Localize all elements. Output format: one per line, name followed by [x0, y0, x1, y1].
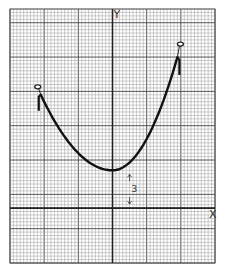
- graph-paper: Y X 3: [0, 0, 231, 269]
- left-open-circle-marker: [35, 85, 41, 89]
- right-marker-stem: [177, 46, 179, 57]
- right-open-circle-marker: [177, 42, 183, 46]
- vertex-offset-label: 3: [132, 184, 138, 194]
- y-axis-label: Y: [113, 8, 121, 21]
- x-axis-label: X: [209, 208, 217, 221]
